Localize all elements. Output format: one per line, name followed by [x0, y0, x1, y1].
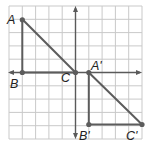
vertex-b-prime	[86, 122, 91, 127]
x-axis-right-arrow-icon	[136, 70, 142, 75]
label-b-prime: B'	[79, 129, 90, 143]
coordinate-grid-diagram: A B C A' B' C'	[0, 0, 151, 145]
label-a-prime: A'	[90, 59, 102, 73]
y-axis-up-arrow-icon	[73, 6, 78, 12]
label-a: A	[6, 13, 15, 27]
vertex-b	[20, 70, 25, 75]
y-axis-down-arrow-icon	[73, 133, 78, 139]
label-c: C	[61, 71, 71, 85]
vertex-c	[73, 70, 78, 75]
label-c-prime: C'	[126, 129, 138, 143]
vertex-c-prime	[139, 122, 144, 127]
vertex-a	[20, 17, 25, 22]
label-b: B	[10, 77, 18, 91]
